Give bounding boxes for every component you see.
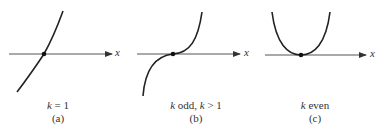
root-point-b xyxy=(171,52,176,57)
curve-a xyxy=(17,11,63,92)
condition-b: k odd, k > 1 xyxy=(150,99,242,112)
caption-c: k even (c) xyxy=(285,99,345,125)
x-axis-label-b: x xyxy=(244,46,249,58)
caption-b: k odd, k > 1 (b) xyxy=(150,99,242,125)
panel-b-plot xyxy=(137,12,240,96)
root-point-a xyxy=(42,52,47,57)
tag-c: (c) xyxy=(285,112,345,125)
panel-a-plot xyxy=(9,11,112,92)
condition-c: k even xyxy=(285,99,345,112)
condition-a: k = 1 xyxy=(28,99,88,112)
root-point-c xyxy=(299,53,304,58)
panel-c-plot xyxy=(265,12,366,57)
caption-a: k = 1 (a) xyxy=(28,99,88,125)
x-axis-label-a: x xyxy=(115,46,120,58)
curve-c xyxy=(272,12,330,55)
tag-a: (a) xyxy=(28,112,88,125)
tag-b: (b) xyxy=(150,112,242,125)
x-axis-label-c: x xyxy=(370,47,375,59)
